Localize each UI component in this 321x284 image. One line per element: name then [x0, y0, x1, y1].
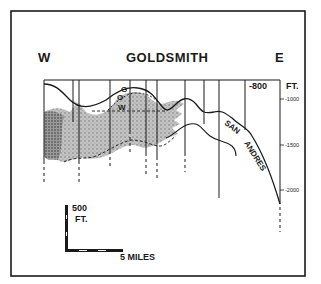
oil-label: O — [117, 93, 123, 102]
scale-bar-horizontal — [65, 249, 123, 252]
diagram-title: GOLDSMITH — [126, 50, 209, 65]
formation-label-andres: ANDRES — [242, 139, 268, 173]
datum-label: -800 — [249, 81, 267, 91]
scale-vertical-value: 500 — [72, 203, 87, 213]
formation-label-san: SAN — [223, 118, 242, 136]
scale-horizontal-label: 5 MILES — [120, 252, 155, 262]
depth-tick-label: -1500 — [285, 142, 299, 148]
direction-west-label: W — [38, 50, 51, 65]
depth-tick-label: -1000 — [285, 96, 299, 102]
depth-tick-label: -2000 — [285, 187, 299, 193]
scale-vertical-unit: FT. — [75, 214, 88, 224]
cross-section-figure: W GOLDSMITH E G O W — [0, 0, 321, 284]
lower-horizon — [166, 124, 236, 156]
direction-east-label: E — [275, 50, 284, 65]
scale-bar: 500 FT. 5 MILES — [65, 203, 155, 262]
water-label: W — [118, 103, 126, 112]
depth-unit-label: FT. — [286, 81, 299, 91]
reservoir-body — [44, 92, 184, 162]
scale-bar-vertical — [65, 205, 68, 252]
